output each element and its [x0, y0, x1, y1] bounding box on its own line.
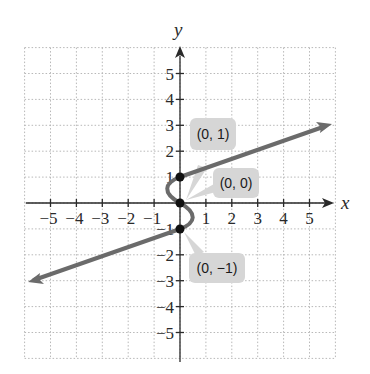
y-tick-label: 4	[166, 90, 175, 109]
x-tick-label: −5	[39, 209, 57, 228]
point-labels: (0, 1) (0, 0) (0, −1)	[184, 118, 259, 283]
y-axis-label: y	[172, 19, 183, 40]
axes: x y	[26, 19, 350, 362]
point-0-0	[176, 199, 185, 208]
svg-text:(0, 0): (0, 0)	[220, 175, 253, 191]
svg-text:(0, 1): (0, 1)	[197, 126, 230, 142]
y-tick-label: −3	[156, 272, 174, 291]
point-0-neg1	[176, 225, 185, 234]
y-tick-label: 5	[166, 65, 175, 84]
x-tick-label: 4	[279, 209, 288, 228]
svg-text:(0, −1): (0, −1)	[197, 260, 238, 276]
y-tick-label: 3	[166, 116, 175, 135]
x-axis-label: x	[340, 192, 350, 213]
x-tick-label: −2	[117, 209, 135, 228]
y-tick-label: −2	[156, 246, 174, 265]
y-tick-label: −5	[156, 324, 174, 343]
y-tick-label: 2	[166, 142, 175, 161]
x-tick-label: 5	[305, 209, 314, 228]
x-tick-label: −3	[91, 209, 109, 228]
label-bubble-0-neg1: (0, −1)	[184, 232, 245, 283]
point-0-1	[176, 173, 185, 182]
x-tick-label: 2	[228, 209, 237, 228]
graph: x y −5−4−3−2−11234554321−1−2−3−4−5 (0, 1…	[0, 0, 370, 374]
y-tick-label: −4	[156, 298, 175, 317]
x-tick-label: 1	[202, 209, 211, 228]
x-tick-label: −4	[65, 209, 84, 228]
x-tick-label: 3	[253, 209, 262, 228]
